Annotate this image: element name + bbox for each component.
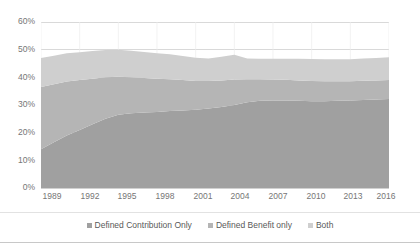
legend-swatch-icon <box>208 223 213 228</box>
bottom-rule <box>0 242 420 243</box>
area-series-group <box>41 50 389 188</box>
legend-swatch-icon <box>87 223 92 228</box>
y-tick-label-60: 60% <box>18 17 35 26</box>
legend-swatch-icon <box>308 223 313 228</box>
x-tick-label-1989: 1989 <box>43 191 62 201</box>
x-axis: 1989 1992 1995 1998 2001 2004 2007 2010 … <box>0 191 420 205</box>
legend-item-both[interactable]: Both <box>308 220 334 230</box>
x-axis-line <box>41 188 389 189</box>
x-tick-label-2010: 2010 <box>307 191 326 201</box>
legend-label: Defined Contribution Only <box>95 220 192 230</box>
stacked-area-chart: 60% 50% 40% 30% 20% 10% 0% 1989 1992 199… <box>0 0 420 249</box>
x-tick-label-2007: 2007 <box>269 191 288 201</box>
x-tick-label-2016: 2016 <box>377 191 396 201</box>
y-tick-label-30: 30% <box>18 100 35 109</box>
y-tick-label-10: 10% <box>18 156 35 165</box>
y-tick-label-40: 40% <box>18 73 35 82</box>
legend-label: Both <box>316 220 334 230</box>
y-tick-label-50: 50% <box>18 45 35 54</box>
legend-item-defined-contribution-only[interactable]: Defined Contribution Only <box>87 220 192 230</box>
legend-divider <box>0 212 420 213</box>
x-tick-label-1995: 1995 <box>118 191 137 201</box>
plot-area <box>41 22 389 188</box>
x-tick-label-2001: 2001 <box>194 191 213 201</box>
x-tick-label-2013: 2013 <box>344 191 363 201</box>
x-tick-label-1992: 1992 <box>81 191 100 201</box>
chart-legend: Defined Contribution Only Defined Benefi… <box>0 218 420 232</box>
x-tick-label-1998: 1998 <box>156 191 175 201</box>
y-tick-label-20: 20% <box>18 128 35 137</box>
legend-label: Defined Benefit only <box>216 220 292 230</box>
x-tick-label-2004: 2004 <box>231 191 250 201</box>
plot-svg <box>41 22 389 188</box>
legend-item-defined-benefit-only[interactable]: Defined Benefit only <box>208 220 292 230</box>
